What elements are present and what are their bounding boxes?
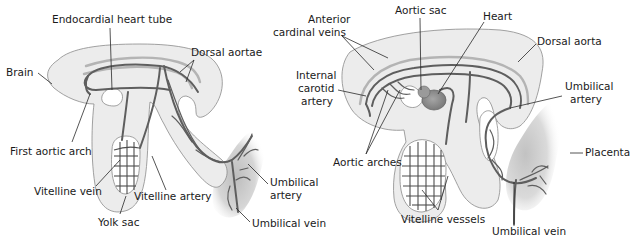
label-dorsal-aorta: Dorsal aorta — [537, 35, 602, 47]
label-umbilical-artery-left-2: artery — [270, 189, 302, 201]
label-umbilical-artery-left-1: Umbilical — [270, 176, 318, 188]
label-anterior-cardinal-veins-1: Anterior — [308, 13, 351, 25]
label-aortic-arches: Aortic arches — [333, 156, 402, 168]
label-placenta: Placenta — [585, 146, 630, 158]
right-aortic-sac-shape — [418, 86, 430, 98]
label-vitelline-vessels: Vitelline vessels — [401, 213, 485, 225]
leader-vitelline-artery — [152, 156, 166, 190]
label-vitelline-vein: Vitelline vein — [34, 185, 102, 197]
right-embryo — [342, 29, 562, 224]
label-vitelline-artery: Vitelline artery — [134, 190, 212, 202]
label-brain: Brain — [6, 66, 34, 78]
label-umbilical-vein-left: Umbilical vein — [252, 217, 326, 229]
label-umbilical-vein-right: Umbilical vein — [492, 225, 566, 237]
label-internal-carotid-3: artery — [301, 95, 333, 107]
label-first-aortic-arch: First aortic arch — [10, 145, 92, 157]
label-heart: Heart — [483, 10, 512, 22]
left-pharynx — [102, 88, 123, 106]
label-aortic-sac: Aortic sac — [395, 4, 447, 16]
label-internal-carotid-2: carotid — [298, 82, 334, 94]
label-dorsal-aortae: Dorsal aortae — [191, 46, 262, 58]
label-yolk-sac: Yolk sac — [97, 216, 140, 228]
label-umbilical-artery-right-1: Umbilical — [565, 80, 613, 92]
label-endocardial-heart-tube: Endocardial heart tube — [52, 13, 172, 25]
label-internal-carotid-1: Internal — [296, 69, 336, 81]
label-umbilical-artery-right-2: artery — [570, 93, 602, 105]
label-anterior-cardinal-veins-2: cardinal veins — [273, 26, 346, 38]
embryo-circulation-diagram: Endocardial heart tube Dorsal aortae Bra… — [0, 0, 636, 240]
